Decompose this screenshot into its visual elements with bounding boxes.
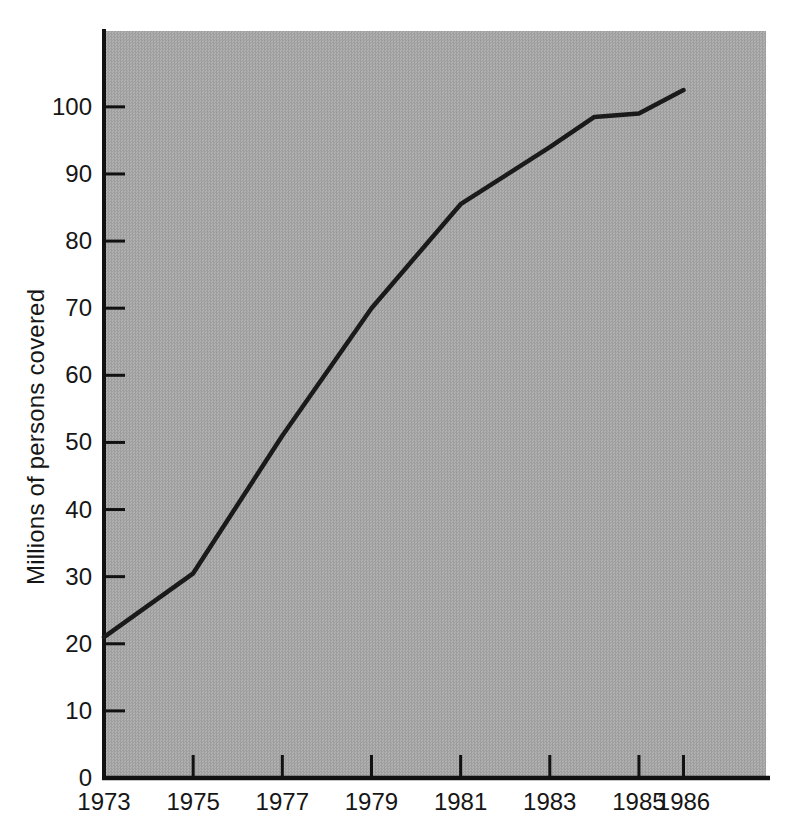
data-line-persons-covered bbox=[104, 90, 684, 637]
x-tick-label: 1986 bbox=[639, 789, 729, 815]
y-tick-label: 20 bbox=[0, 631, 92, 657]
y-tick-label: 100 bbox=[0, 94, 92, 120]
x-tick-label: 1981 bbox=[416, 789, 506, 815]
axes-group bbox=[102, 29, 770, 780]
x-tick-label: 1975 bbox=[148, 789, 238, 815]
y-tick-label: 40 bbox=[0, 497, 92, 523]
x-tick-label: 1983 bbox=[505, 789, 595, 815]
y-tick-label: 10 bbox=[0, 698, 92, 724]
chart-svg bbox=[0, 0, 788, 840]
chart-figure: Millions of persons covered 010203040506… bbox=[0, 0, 788, 840]
x-tick-label: 1977 bbox=[237, 789, 327, 815]
x-tick-label: 1979 bbox=[326, 789, 416, 815]
x-tick-label: 1973 bbox=[59, 789, 149, 815]
y-tick-label: 50 bbox=[0, 429, 92, 455]
y-tick-label: 30 bbox=[0, 564, 92, 590]
y-tick-label: 90 bbox=[0, 161, 92, 187]
y-tick-label: 80 bbox=[0, 228, 92, 254]
y-tick-label: 60 bbox=[0, 362, 92, 388]
tick-marks-group bbox=[106, 107, 684, 776]
y-tick-label: 70 bbox=[0, 295, 92, 321]
